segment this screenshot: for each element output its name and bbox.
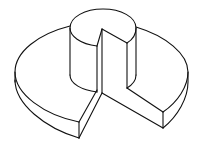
top-notch-left-edge	[97, 29, 102, 46]
wedge-right-face-top-edge	[127, 88, 163, 112]
drawing-canvas: Isometric line drawing of a cut-away ste…	[0, 0, 199, 149]
top-cylinder-left-base-curve	[70, 75, 97, 92]
top-notch-right-edge	[102, 29, 127, 43]
base-disk-left-top-edge	[15, 26, 79, 122]
top-cylinder-top-ellipse	[70, 9, 136, 46]
top-cylinder-right-base-curve	[127, 75, 136, 88]
base-disk-right-rim-bottom	[163, 72, 188, 128]
base-disk-left-rim-bottom	[15, 80, 79, 138]
top-cylinder	[70, 9, 136, 93]
cutaway-disk-drawing	[0, 0, 199, 149]
wedge-left-face-top-edge	[79, 90, 97, 122]
wedge-right-face-bottom-edge	[102, 93, 163, 128]
